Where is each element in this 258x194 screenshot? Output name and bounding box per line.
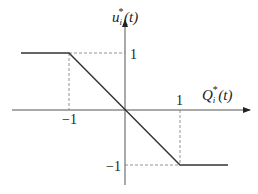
y-tick-pos: 1 xyxy=(130,47,137,62)
x-tick-neg: −1 xyxy=(62,112,77,127)
y-axis-label: ui*(t) xyxy=(112,6,138,27)
saturation-diagram: ui*(t) Qi*(t) 1 −1 1 −1 xyxy=(0,0,258,194)
x-tick-pos: 1 xyxy=(176,93,183,108)
y-tick-neg: −1 xyxy=(106,159,121,174)
x-axis-label: Qi*(t) xyxy=(202,84,233,105)
